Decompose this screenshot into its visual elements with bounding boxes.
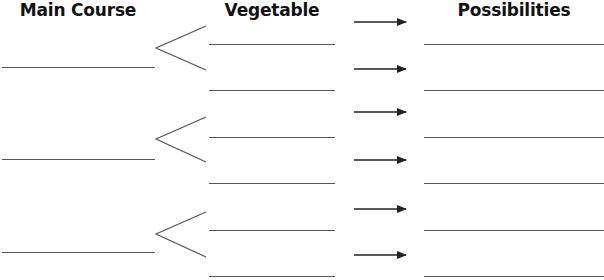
vegetable-blank-4[interactable]	[209, 183, 335, 184]
arrows	[354, 22, 406, 255]
possibility-blank-2[interactable]	[424, 90, 604, 91]
main-course-blank-3[interactable]	[2, 252, 155, 253]
possibility-blank-3[interactable]	[424, 137, 604, 138]
possibility-blank-4[interactable]	[424, 183, 604, 184]
vegetable-blank-2[interactable]	[209, 90, 335, 91]
main-course-blank-2[interactable]	[2, 159, 155, 160]
chevron-3	[156, 212, 206, 257]
chevron-1	[156, 26, 206, 70]
main-course-blank-1[interactable]	[2, 67, 155, 68]
vegetable-blank-6[interactable]	[209, 276, 335, 277]
vegetable-blank-3[interactable]	[209, 137, 335, 138]
chevron-2	[156, 117, 206, 162]
possibility-blank-1[interactable]	[424, 44, 604, 45]
vegetable-blank-5[interactable]	[209, 230, 335, 231]
branch-chevrons	[156, 26, 206, 257]
diagram-connectors	[0, 0, 604, 280]
possibility-blank-5[interactable]	[424, 230, 604, 231]
vegetable-blank-1[interactable]	[209, 44, 335, 45]
possibility-blank-6[interactable]	[424, 276, 604, 277]
